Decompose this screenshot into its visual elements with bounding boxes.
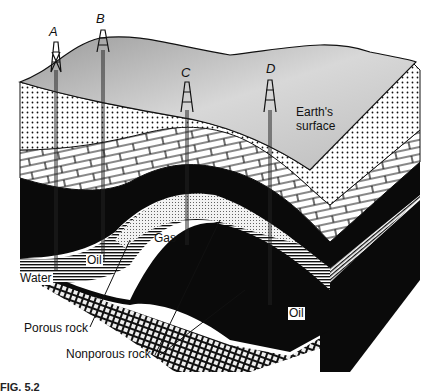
earth-surface-label-line2: surface — [296, 120, 335, 133]
gas-label: Gas — [154, 232, 176, 245]
water-label: Water — [19, 272, 53, 285]
well-label-a: A — [49, 24, 58, 39]
oil-gas-trap-diagram: A B C D Earth's surface Gas Oil Water Oi… — [0, 0, 441, 391]
nonporous-rock-label: Nonporous rock — [66, 348, 151, 361]
figure-caption: FIG. 5.2 — [0, 382, 40, 391]
well-label-c: C — [181, 65, 190, 80]
earth-surface-label-line1: Earth's — [296, 106, 333, 119]
well-label-d: D — [266, 61, 275, 76]
oil-label-right: Oil — [288, 307, 305, 320]
well-label-b: B — [96, 11, 105, 26]
oil-label-left: Oil — [86, 254, 103, 267]
porous-rock-label: Porous rock — [24, 322, 88, 335]
